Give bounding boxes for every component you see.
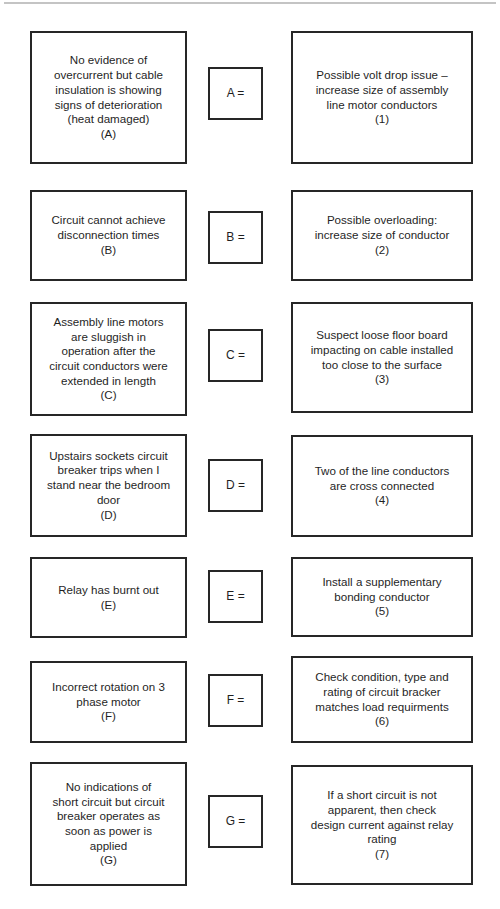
answer-box-f[interactable]: F = — [208, 674, 263, 727]
symptom-text-d: Upstairs sockets circuit breaker trips w… — [47, 449, 170, 523]
remedy-box-1[interactable]: Possible volt drop issue – increase size… — [291, 31, 473, 164]
remedy-box-3[interactable]: Suspect loose floor board impacting on c… — [291, 302, 473, 413]
remedy-box-6[interactable]: Check condition, type and rating of circ… — [291, 656, 473, 743]
answer-box-b[interactable]: B = — [208, 211, 263, 264]
top-divider-rule — [4, 2, 496, 4]
answer-label-a: A = — [227, 86, 245, 101]
symptom-box-e[interactable]: Relay has burnt out (E) — [30, 557, 187, 638]
answer-label-g: G = — [226, 814, 246, 829]
answer-label-d: D = — [226, 478, 245, 493]
symptom-text-a: No evidence of overcurrent but cable ins… — [54, 53, 163, 141]
answer-box-a[interactable]: A = — [208, 67, 263, 120]
remedy-text-4: Two of the line conductors are cross con… — [315, 464, 450, 508]
symptom-text-c: Assembly line motors are sluggish in ope… — [49, 315, 168, 403]
remedy-text-3: Suspect loose floor board impacting on c… — [311, 328, 453, 387]
remedy-text-7: If a short circuit is not apparent, then… — [311, 788, 453, 862]
remedy-box-5[interactable]: Install a supplementary bonding conducto… — [291, 557, 473, 637]
symptom-text-g: No indications of short circuit but circ… — [52, 780, 164, 868]
remedy-box-7[interactable]: If a short circuit is not apparent, then… — [291, 765, 473, 885]
answer-box-c[interactable]: C = — [208, 329, 263, 382]
symptom-box-b[interactable]: Circuit cannot achieve disconnection tim… — [30, 190, 187, 281]
symptom-box-f[interactable]: Incorrect rotation on 3 phase motor (F) — [30, 661, 187, 743]
remedy-text-6: Check condition, type and rating of circ… — [315, 670, 448, 729]
remedy-text-5: Install a supplementary bonding conducto… — [322, 575, 441, 619]
answer-box-d[interactable]: D = — [208, 459, 263, 512]
remedy-text-2: Possible overloading: increase size of c… — [315, 213, 450, 257]
symptom-text-e: Relay has burnt out (E) — [58, 583, 159, 612]
answer-label-f: F = — [227, 693, 245, 708]
answer-label-b: B = — [226, 230, 244, 245]
answer-label-e: E = — [226, 589, 244, 604]
remedy-text-1: Possible volt drop issue – increase size… — [316, 68, 449, 127]
answer-box-g[interactable]: G = — [208, 795, 263, 848]
answer-box-e[interactable]: E = — [208, 570, 263, 623]
symptom-box-g[interactable]: No indications of short circuit but circ… — [30, 762, 187, 886]
symptom-box-c[interactable]: Assembly line motors are sluggish in ope… — [30, 302, 187, 416]
symptom-box-d[interactable]: Upstairs sockets circuit breaker trips w… — [30, 434, 187, 537]
remedy-box-4[interactable]: Two of the line conductors are cross con… — [291, 435, 473, 537]
symptom-text-b: Circuit cannot achieve disconnection tim… — [51, 213, 165, 257]
symptom-box-a[interactable]: No evidence of overcurrent but cable ins… — [30, 31, 187, 164]
answer-label-c: C = — [226, 348, 245, 363]
symptom-text-f: Incorrect rotation on 3 phase motor (F) — [52, 680, 165, 724]
remedy-box-2[interactable]: Possible overloading: increase size of c… — [291, 190, 473, 281]
